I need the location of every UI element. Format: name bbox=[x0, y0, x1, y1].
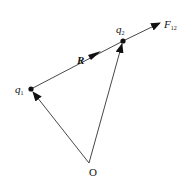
label-R: R bbox=[76, 54, 84, 66]
charge-q1-dot bbox=[28, 86, 33, 91]
vector-F12 bbox=[123, 23, 160, 41]
position-vector-q1 bbox=[33, 92, 89, 163]
label-q1: q1 bbox=[15, 83, 24, 96]
label-F12: F12 bbox=[163, 18, 177, 31]
label-origin: O bbox=[89, 166, 97, 178]
label-q2: q2 bbox=[116, 23, 125, 36]
vector-diagram: q1 q2 R F12 O bbox=[0, 0, 189, 187]
charge-q2-dot bbox=[120, 38, 125, 43]
position-vector-q2 bbox=[89, 44, 122, 163]
